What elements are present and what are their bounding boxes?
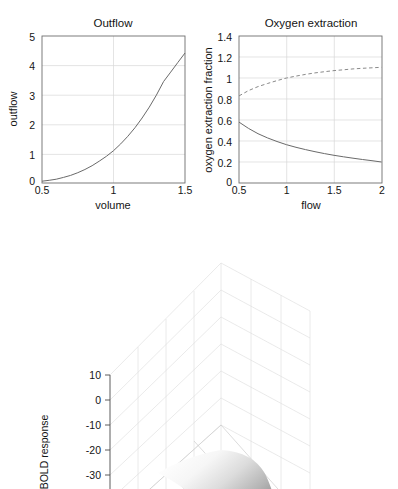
ytick-4: 4 xyxy=(29,60,35,72)
chart-oxygen-extraction: Oxygen extraction 1.4 1.2 1 0.8 0.6 xyxy=(199,0,398,220)
oxygen-gridlines xyxy=(239,36,382,183)
ytick-0_6: 0.6 xyxy=(217,115,232,127)
oxygen-y-ticks: 1.4 1.2 1 0.8 0.6 0.4 0.2 0 xyxy=(217,31,232,189)
chart-outflow: Outflow 5 4 3 2 1 0 0.5 1 1.5 xyxy=(0,0,199,220)
ytick-1: 1 xyxy=(29,149,35,161)
ytick-1_2: 1.2 xyxy=(217,52,232,64)
ytick-3: 3 xyxy=(29,90,35,102)
xtick-1_5: 1.5 xyxy=(327,184,342,196)
ytick-1: 1 xyxy=(226,73,232,85)
oxygen-delivery-curve xyxy=(239,67,382,96)
ytick-5: 5 xyxy=(29,31,35,43)
ztick-m30: -30 xyxy=(86,469,101,481)
oxygen-ylabel: oxygen extraction fraction xyxy=(202,47,214,172)
outflow-y-ticks: 5 4 3 2 1 0 xyxy=(29,31,35,188)
ztick-m20: -20 xyxy=(86,444,101,456)
xtick-2: 1.5 xyxy=(178,184,193,196)
oxygen-svg: Oxygen extraction 1.4 1.2 1 0.8 0.6 xyxy=(199,0,398,220)
outflow-x-ticks: 0.5 1 1.5 xyxy=(35,184,193,196)
xtick-0_5: 0.5 xyxy=(232,184,247,196)
outflow-gridlines xyxy=(42,36,185,183)
outflow-ylabel: outflow xyxy=(7,92,19,127)
oxygen-title: Oxygen extraction xyxy=(265,17,358,29)
ytick-0_2: 0.2 xyxy=(217,157,232,169)
ytick-1_4: 1.4 xyxy=(217,31,232,43)
outflow-xlabel: volume xyxy=(95,199,130,211)
bold-surface xyxy=(158,450,278,489)
xtick-1: 1 xyxy=(284,184,290,196)
outflow-svg: Outflow 5 4 3 2 1 0 0.5 1 1.5 xyxy=(0,0,199,220)
oxygen-plot-box xyxy=(239,36,382,183)
oxygen-xlabel: flow xyxy=(301,199,321,211)
ytick-0_4: 0.4 xyxy=(217,136,232,148)
bold-svg: 10 0 -10 -20 -30 -40 -50 3 2 1 0 0 1 2 3 xyxy=(0,220,398,489)
xtick-0: 0.5 xyxy=(35,184,50,196)
figure-panel-grid: Outflow 5 4 3 2 1 0 0.5 1 1.5 xyxy=(0,0,398,489)
ztick-10: 10 xyxy=(89,369,101,381)
bold-zlabel: BOLD response xyxy=(38,414,50,489)
oxygen-x-ticks: 0.5 1 1.5 2 xyxy=(232,184,385,196)
ztick-0: 0 xyxy=(95,394,101,406)
bold-z-ticks: 10 0 -10 -20 -30 -40 -50 xyxy=(86,369,110,489)
ztick-m10: -10 xyxy=(86,419,101,431)
ytick-2: 2 xyxy=(29,119,35,131)
oxygen-extraction-curve xyxy=(239,122,382,162)
outflow-title: Outflow xyxy=(94,17,134,29)
xtick-2: 2 xyxy=(379,184,385,196)
xtick-1: 1 xyxy=(111,184,117,196)
ytick-0_8: 0.8 xyxy=(217,94,232,106)
chart-bold-response-3d: 10 0 -10 -20 -30 -40 -50 3 2 1 0 0 1 2 3 xyxy=(0,220,398,489)
